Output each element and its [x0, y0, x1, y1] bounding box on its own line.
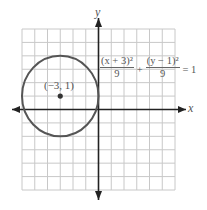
coordinate-plane [0, 0, 207, 210]
y-term-denominator: 9 [160, 68, 165, 80]
fraction-x-term: (x + 3)² 9 [100, 55, 134, 80]
x-term-denominator: 9 [114, 68, 119, 80]
x-term-numerator: (x + 3)² [100, 55, 134, 68]
circle-equation: (x + 3)² 9 + (y − 1)² 9 = 1 [100, 55, 199, 80]
equals-one: = 1 [183, 60, 197, 75]
y-axis-label: y [95, 5, 100, 20]
x-axis-label: x [188, 101, 193, 116]
plus-sign: + [137, 60, 143, 75]
center-point-label: (−3, 1) [44, 79, 74, 91]
fraction-y-term: (y − 1)² 9 [146, 55, 180, 80]
y-term-numerator: (y − 1)² [146, 55, 180, 68]
x-axis-left-arrow-icon [12, 106, 20, 113]
x-axis-right-arrow-icon [178, 106, 186, 113]
center-point [58, 93, 63, 98]
y-axis-down-arrow-icon [95, 191, 102, 200]
axes [12, 18, 186, 200]
